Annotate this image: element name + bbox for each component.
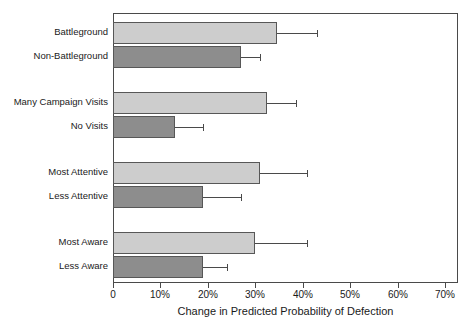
- error-bar-line: [255, 243, 307, 244]
- x-tick-label: 60%: [388, 289, 408, 301]
- error-bar-line: [260, 173, 307, 174]
- x-axis-title: Change in Predicted Probability of Defec…: [113, 305, 458, 318]
- x-tick-label: 30%: [245, 289, 265, 301]
- x-tick-mark: [398, 283, 399, 288]
- error-bar-cap: [203, 124, 204, 131]
- x-tick-label: 20%: [198, 289, 218, 301]
- error-bar-cap: [317, 30, 318, 37]
- bars-layer: [113, 13, 458, 283]
- x-tick-mark: [303, 283, 304, 288]
- x-axis: Change in Predicted Probability of Defec…: [0, 283, 468, 328]
- x-tick-label: 40%: [293, 289, 313, 301]
- category-label: Many Campaign Visits: [0, 97, 108, 107]
- bar-less-aware: [113, 256, 203, 278]
- error-bar-line: [203, 197, 241, 198]
- x-tick-mark: [255, 283, 256, 288]
- x-tick-mark: [113, 283, 114, 288]
- category-label: Non-Battleground: [0, 51, 108, 61]
- category-label: Most Attentive: [0, 167, 108, 177]
- error-bar-cap: [307, 170, 308, 177]
- bar-less-attentive: [113, 186, 203, 208]
- error-bar-cap: [241, 194, 242, 201]
- bar-most-attentive: [113, 162, 260, 184]
- bar-non-battleground: [113, 46, 241, 68]
- x-tick-mark: [445, 283, 446, 288]
- x-tick-label: 10%: [150, 289, 170, 301]
- bar-most-aware: [113, 232, 255, 254]
- error-bar-line: [241, 57, 260, 58]
- error-bar-line: [267, 103, 296, 104]
- bar-chart-figure: BattlegroundNon-BattlegroundMany Campaig…: [0, 0, 468, 328]
- x-tick-label: 70%: [435, 289, 455, 301]
- category-label: Less Attentive: [0, 191, 108, 201]
- x-tick-mark: [350, 283, 351, 288]
- bar-many-campaign-visits: [113, 92, 267, 114]
- bar-battleground: [113, 22, 277, 44]
- error-bar-line: [203, 267, 227, 268]
- error-bar-cap: [260, 54, 261, 61]
- error-bar-cap: [307, 240, 308, 247]
- category-label: No Visits: [0, 121, 108, 131]
- x-tick-label: 0: [110, 289, 116, 301]
- category-axis: BattlegroundNon-BattlegroundMany Campaig…: [0, 13, 108, 283]
- category-label: Less Aware: [0, 261, 108, 271]
- error-bar-cap: [296, 100, 297, 107]
- bar-no-visits: [113, 116, 175, 138]
- category-label: Most Aware: [0, 237, 108, 247]
- x-tick-label: 50%: [340, 289, 360, 301]
- x-tick-mark: [208, 283, 209, 288]
- error-bar-cap: [227, 264, 228, 271]
- error-bar-line: [277, 33, 317, 34]
- error-bar-line: [175, 127, 203, 128]
- category-label: Battleground: [0, 27, 108, 37]
- x-tick-mark: [160, 283, 161, 288]
